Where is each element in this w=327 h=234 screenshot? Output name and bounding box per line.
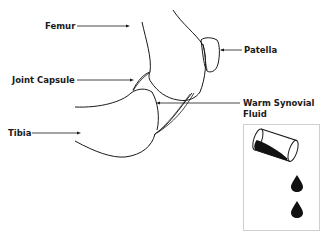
joint-capsule-upper-inner [133, 73, 149, 91]
label-synovial-fluid-line2: Fluid [243, 109, 267, 119]
joint-capsule-arrowhead [130, 79, 134, 82]
tibia-bottom [75, 134, 155, 157]
femur-front [149, 10, 206, 101]
label-femur: Femur [45, 21, 75, 31]
patella [201, 38, 219, 72]
label-synovial-fluid-line1: Warm Synovial [243, 98, 314, 108]
label-tibia: Tibia [8, 128, 31, 138]
femur-outline [142, 22, 150, 72]
fluid-inset [244, 125, 320, 231]
tibia-arrowhead [77, 132, 81, 135]
knee-diagram [0, 0, 327, 234]
label-joint-capsule: Joint Capsule [12, 75, 75, 85]
patella-arrowhead [220, 49, 224, 52]
label-patella: Patella [244, 45, 277, 55]
femur-arrowhead [126, 25, 130, 28]
tibia-top [75, 89, 158, 130]
